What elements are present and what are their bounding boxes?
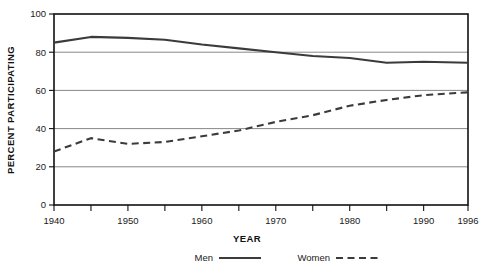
y-tick-label-60: 60 <box>35 85 46 96</box>
x-tick-label-1980: 1980 <box>339 215 360 226</box>
x-axis-title: YEAR <box>233 233 261 244</box>
x-tick-label-1970: 1970 <box>265 215 286 226</box>
y-tick-label-40: 40 <box>35 123 46 134</box>
y-tick-label-100: 100 <box>30 8 46 19</box>
x-tick-label-1990: 1990 <box>413 215 434 226</box>
y-tick-label-0: 0 <box>41 199 46 210</box>
line-chart: 020406080100 194019501960197019801990199… <box>0 0 494 272</box>
legend-label-women: Women <box>297 252 330 263</box>
y-axis-title: PERCENT PARTICIPATING <box>5 46 16 174</box>
x-tick-label-1960: 1960 <box>191 215 212 226</box>
x-tick-label-1996: 1996 <box>457 215 478 226</box>
legend-label-men: Men <box>195 252 213 263</box>
chart-figure: 020406080100 194019501960197019801990199… <box>0 0 494 272</box>
chart-background <box>0 0 494 272</box>
y-tick-label-80: 80 <box>35 47 46 58</box>
x-tick-label-1940: 1940 <box>43 215 64 226</box>
x-tick-label-1950: 1950 <box>117 215 138 226</box>
y-tick-label-20: 20 <box>35 161 46 172</box>
